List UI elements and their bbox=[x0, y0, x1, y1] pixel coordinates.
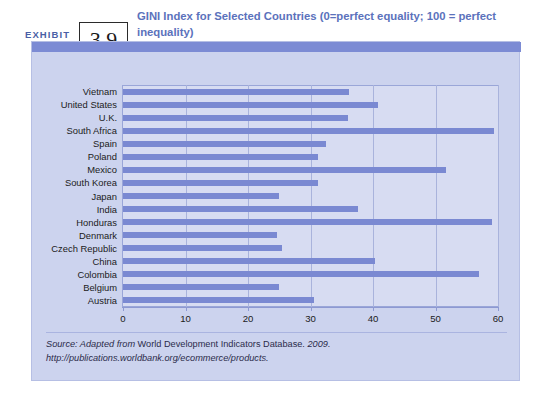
bar bbox=[123, 258, 375, 264]
category-label: Spain bbox=[0, 137, 117, 150]
exhibit-label: EXHIBIT bbox=[25, 29, 70, 40]
bar bbox=[123, 167, 446, 173]
bar-row: Honduras bbox=[32, 216, 521, 229]
bar bbox=[123, 271, 479, 277]
bar-row: Denmark bbox=[32, 229, 521, 242]
tick-mark-30 bbox=[311, 307, 312, 311]
category-label: U.K. bbox=[0, 111, 117, 124]
tick-mark-20 bbox=[248, 307, 249, 311]
source-database: World Development Indicators Database. bbox=[138, 339, 305, 349]
source-url: http://publications.worldbank.org/ecomme… bbox=[46, 353, 269, 363]
bar bbox=[123, 115, 348, 121]
category-label: Denmark bbox=[0, 229, 117, 242]
category-label: Vietnam bbox=[0, 85, 117, 98]
tick-mark-60 bbox=[498, 307, 499, 311]
bar-row: Belgium bbox=[32, 281, 521, 294]
bar bbox=[123, 102, 378, 108]
tick-label-30: 30 bbox=[296, 313, 326, 324]
bar bbox=[123, 89, 349, 95]
bar bbox=[123, 297, 314, 303]
bar-row: Japan bbox=[32, 190, 521, 203]
bar-row: South Korea bbox=[32, 176, 521, 189]
category-label: Austria bbox=[0, 294, 117, 307]
panel-top-accent-bar bbox=[32, 42, 521, 52]
chart-panel: VietnamUnited StatesU.K.South AfricaSpai… bbox=[31, 41, 520, 381]
tick-label-20: 20 bbox=[233, 313, 263, 324]
tick-label-10: 10 bbox=[171, 313, 201, 324]
category-label: Belgium bbox=[0, 281, 117, 294]
bar-row: Spain bbox=[32, 137, 521, 150]
bar bbox=[123, 206, 358, 212]
category-label: Mexico bbox=[0, 163, 117, 176]
tick-label-50: 50 bbox=[421, 313, 451, 324]
tick-label-60: 60 bbox=[483, 313, 513, 324]
category-label: India bbox=[0, 203, 117, 216]
bar bbox=[123, 128, 494, 134]
bar-row: United States bbox=[32, 98, 521, 111]
tick-mark-40 bbox=[373, 307, 374, 311]
tick-mark-10 bbox=[186, 307, 187, 311]
tick-label-0: 0 bbox=[108, 313, 138, 324]
category-label: South Africa bbox=[0, 124, 117, 137]
bar-row: Mexico bbox=[32, 163, 521, 176]
bar-row: South Africa bbox=[32, 124, 521, 137]
source-note: Source: Adapted from World Development I… bbox=[46, 338, 501, 366]
tick-mark-50 bbox=[436, 307, 437, 311]
bar bbox=[123, 180, 318, 186]
source-year: 2009. bbox=[308, 339, 331, 349]
category-label: China bbox=[0, 255, 117, 268]
bar bbox=[123, 219, 492, 225]
category-label: Japan bbox=[0, 190, 117, 203]
tick-mark-0 bbox=[123, 307, 124, 311]
bar-row: Colombia bbox=[32, 268, 521, 281]
category-label: Czech Republic bbox=[0, 242, 117, 255]
bar bbox=[123, 154, 318, 160]
bar bbox=[123, 245, 282, 251]
bar bbox=[123, 141, 326, 147]
bar bbox=[123, 193, 279, 199]
category-label: Honduras bbox=[0, 216, 117, 229]
source-prefix: Source: Adapted from bbox=[46, 339, 135, 349]
bar-row: India bbox=[32, 203, 521, 216]
bar bbox=[123, 232, 277, 238]
bar bbox=[123, 284, 279, 290]
category-label: South Korea bbox=[0, 176, 117, 189]
bar-row: Czech Republic bbox=[32, 242, 521, 255]
bar-row: U.K. bbox=[32, 111, 521, 124]
bar-row: Austria bbox=[32, 294, 521, 307]
category-label: Poland bbox=[0, 150, 117, 163]
bar-rows: VietnamUnited StatesU.K.South AfricaSpai… bbox=[32, 85, 521, 307]
bar-row: China bbox=[32, 255, 521, 268]
exhibit-title: GINI Index for Selected Countries (0=per… bbox=[137, 8, 517, 40]
bar-row: Poland bbox=[32, 150, 521, 163]
bar-row: Vietnam bbox=[32, 85, 521, 98]
tick-label-40: 40 bbox=[358, 313, 388, 324]
source-divider bbox=[46, 332, 507, 333]
category-label: United States bbox=[0, 98, 117, 111]
category-label: Colombia bbox=[0, 268, 117, 281]
